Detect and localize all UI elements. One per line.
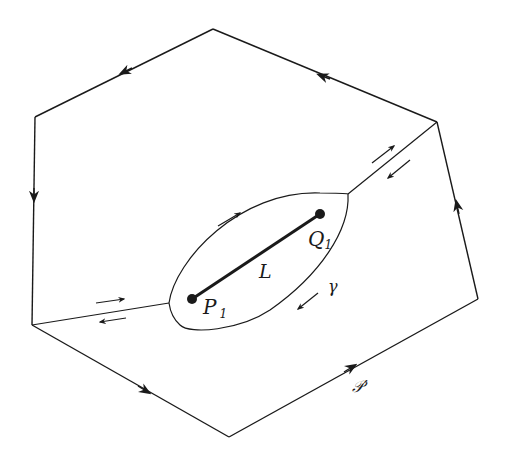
polygon-edge-left	[32, 117, 35, 325]
arrow-left-icon	[388, 160, 410, 178]
polygon-p-prime	[32, 29, 478, 437]
label-l: L	[258, 260, 272, 282]
label-p-prime: 𝒫′	[352, 377, 368, 396]
arrow-left-icon	[298, 293, 318, 309]
polygon-edge-top-left	[35, 29, 213, 117]
polygon-edge-bottom-left	[32, 325, 229, 437]
segment-l	[192, 214, 320, 299]
label-q1: Q1	[308, 227, 332, 252]
label-p1: P1	[202, 295, 227, 321]
diagram-figure: Q1 P1 L γ 𝒫′	[0, 0, 505, 454]
arrow-right-icon	[218, 213, 240, 226]
polygon-edge-top-right	[213, 29, 437, 122]
arrow-left-icon	[100, 318, 126, 322]
cuts	[32, 122, 437, 325]
flow-arrows	[96, 146, 410, 322]
point-p1	[187, 294, 197, 304]
arrow-right-icon	[372, 146, 394, 163]
label-gamma: γ	[328, 277, 338, 296]
point-q1	[315, 209, 325, 219]
cut-right	[348, 122, 437, 194]
polygon-direction-arrows	[34, 68, 459, 391]
polygon-edge-right	[437, 122, 478, 299]
polygon-edge-bottom-right	[229, 299, 478, 437]
arrow-right-icon	[96, 299, 124, 303]
